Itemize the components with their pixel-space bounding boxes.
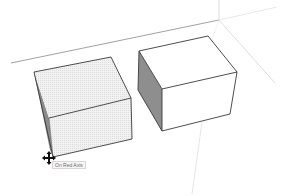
green-axis: [219, 7, 277, 20]
model-viewport[interactable]: On Red Axis: [0, 0, 282, 196]
right-box[interactable]: [138, 36, 237, 131]
axis-extension: [211, 20, 219, 42]
lower-guide-line: [192, 122, 202, 194]
left-box[interactable]: [34, 57, 132, 157]
scene-canvas[interactable]: [0, 0, 282, 196]
inference-tooltip: On Red Axis: [52, 161, 86, 169]
